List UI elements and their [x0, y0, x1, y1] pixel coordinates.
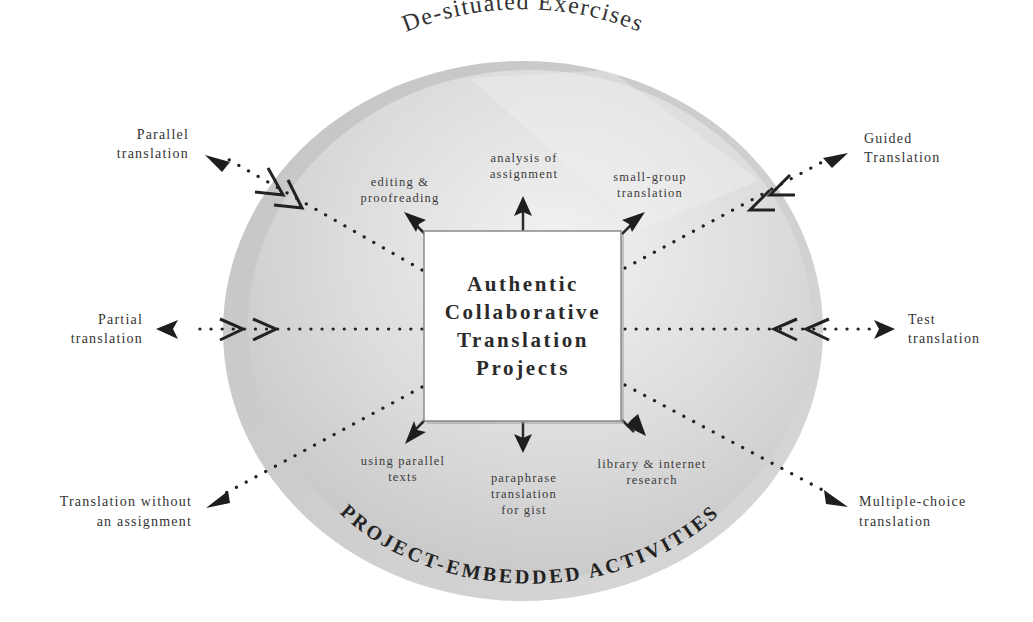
arrowhead-icon	[823, 153, 848, 168]
center-title-line: Collaborative	[445, 300, 601, 324]
svg-text:proofreading: proofreading	[361, 191, 440, 205]
svg-text:for gist: for gist	[501, 503, 546, 517]
svg-text:translation: translation	[908, 331, 980, 346]
svg-text:texts: texts	[388, 470, 418, 484]
arrowhead-icon	[156, 320, 178, 339]
svg-text:Translation: Translation	[864, 150, 940, 165]
arc-title-desituated-exercises: De-situated Exercises	[398, 0, 648, 37]
outer-exercise-guided-translation: Guided Translation	[864, 131, 940, 165]
svg-text:an assignment: an assignment	[97, 514, 192, 529]
svg-text:Multiple-choice: Multiple-choice	[859, 494, 966, 509]
arrowhead-icon	[824, 490, 848, 507]
svg-text:Translation without: Translation without	[60, 494, 192, 509]
svg-text:translation: translation	[71, 331, 143, 346]
center-title-line: Projects	[476, 356, 570, 380]
svg-text:assignment: assignment	[490, 167, 558, 181]
center-title-line: Authentic	[467, 272, 579, 296]
svg-text:research: research	[626, 473, 677, 487]
svg-text:using parallel: using parallel	[361, 454, 446, 468]
svg-text:editing &: editing &	[371, 175, 429, 189]
svg-text:translation: translation	[859, 514, 931, 529]
arrowhead-icon	[874, 320, 895, 339]
svg-text:translation: translation	[617, 186, 683, 200]
svg-text:analysis of: analysis of	[490, 151, 557, 165]
outer-exercise-multiple-choice-translation: Multiple-choice translation	[859, 494, 966, 529]
diagram-canvas: De-situated Exercises PROJECT-EMBEDDED A…	[0, 0, 1033, 622]
outer-exercise-partial-translation: Partial translation	[71, 312, 143, 346]
outer-exercise-parallel-translation: Parallel translation	[117, 127, 189, 161]
svg-text:Parallel: Parallel	[137, 127, 189, 142]
svg-text:translation: translation	[117, 146, 189, 161]
svg-text:small-group: small-group	[613, 170, 687, 184]
outer-exercise-translation-without-assignment: Translation without an assignment	[60, 494, 192, 529]
center-title-line: Translation	[457, 328, 589, 352]
arrowhead-icon	[205, 155, 230, 172]
svg-text:Partial: Partial	[98, 312, 143, 327]
arrowhead-icon	[206, 491, 230, 508]
svg-text:library & internet: library & internet	[597, 457, 706, 471]
svg-text:paraphrase: paraphrase	[491, 471, 557, 485]
outer-exercise-test-translation: Test translation	[908, 312, 980, 346]
svg-text:Guided: Guided	[864, 131, 912, 146]
svg-text:Test: Test	[908, 312, 936, 327]
svg-text:translation: translation	[491, 487, 557, 501]
